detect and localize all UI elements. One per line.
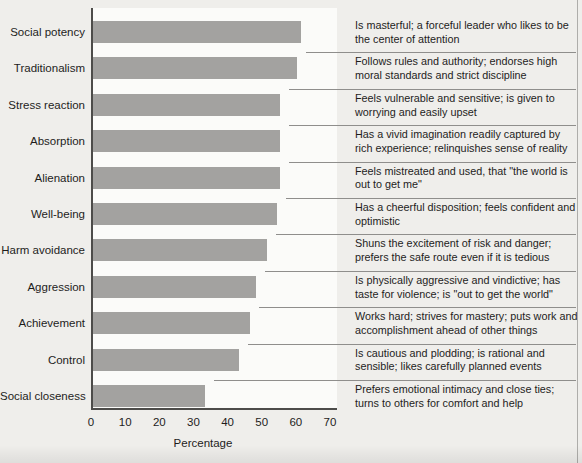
- trait-bar: [93, 349, 240, 371]
- trait-description: Is cautious and plodding; is rational an…: [355, 347, 579, 375]
- category-label: Absorption: [0, 133, 85, 149]
- trait-description: Prefers emotional intimacy and close tie…: [355, 383, 579, 411]
- trait-description: Feels vulnerable and sensitive; is given…: [355, 92, 579, 120]
- row-divider: [286, 198, 576, 199]
- trait-description: Follows rules and authority; endorses hi…: [355, 56, 579, 84]
- personality-traits-bar-chart: Social potencyIs masterful; a forceful l…: [0, 0, 582, 463]
- x-axis-line: [91, 408, 337, 410]
- category-label: Traditionalism: [0, 60, 85, 76]
- trait-bar: [93, 312, 250, 334]
- x-tick-label: 0: [88, 416, 94, 428]
- scan-vignette: [0, 445, 582, 463]
- trait-bar: [93, 276, 257, 298]
- trait-bar: [93, 239, 267, 261]
- x-axis-title: Percentage: [174, 437, 233, 449]
- x-tick-label: 40: [221, 416, 234, 428]
- trait-bar: [93, 203, 277, 225]
- row-divider: [259, 307, 576, 308]
- category-label: Control: [0, 352, 85, 368]
- row-divider: [289, 89, 576, 90]
- category-label: Aggression: [0, 279, 85, 295]
- category-label: Stress reaction: [0, 97, 85, 113]
- trait-description: Is physically aggressive and vindictive;…: [355, 274, 579, 302]
- x-tick-label: 50: [255, 416, 268, 428]
- trait-description: Has a vivid imagination readily captured…: [355, 128, 579, 156]
- trait-bar: [93, 94, 281, 116]
- x-tick-label: 20: [153, 416, 166, 428]
- x-tick-label: 70: [324, 416, 337, 428]
- trait-bar: [93, 21, 301, 43]
- trait-description: Has a cheerful disposition; feels confid…: [355, 201, 579, 229]
- row-divider: [248, 344, 576, 345]
- row-divider: [214, 380, 576, 381]
- category-label: Social potency: [0, 24, 85, 40]
- category-label: Achievement: [0, 315, 85, 331]
- row-divider: [306, 52, 576, 53]
- category-label: Social closeness: [0, 388, 85, 404]
- trait-description: Is masterful; a forceful leader who like…: [355, 19, 579, 47]
- row-divider: [289, 162, 576, 163]
- trait-description: Feels mistreated and used, that "the wor…: [355, 165, 579, 193]
- category-label: Harm avoidance: [0, 242, 85, 258]
- trait-bar: [93, 385, 206, 407]
- x-tick-label: 10: [119, 416, 132, 428]
- category-label: Well-being: [0, 206, 85, 222]
- row-divider: [289, 125, 576, 126]
- category-label: Alienation: [0, 170, 85, 186]
- trait-description: Works hard; strives for mastery; puts wo…: [355, 310, 579, 338]
- row-divider: [265, 271, 576, 272]
- x-tick-label: 30: [187, 416, 200, 428]
- trait-description: Shuns the excitement of risk and danger;…: [355, 238, 579, 266]
- x-tick-label: 60: [289, 416, 302, 428]
- row-divider: [276, 234, 576, 235]
- trait-bar: [93, 57, 298, 79]
- trait-bar: [93, 167, 281, 189]
- trait-bar: [93, 130, 281, 152]
- figure-right-edge: [577, 0, 578, 463]
